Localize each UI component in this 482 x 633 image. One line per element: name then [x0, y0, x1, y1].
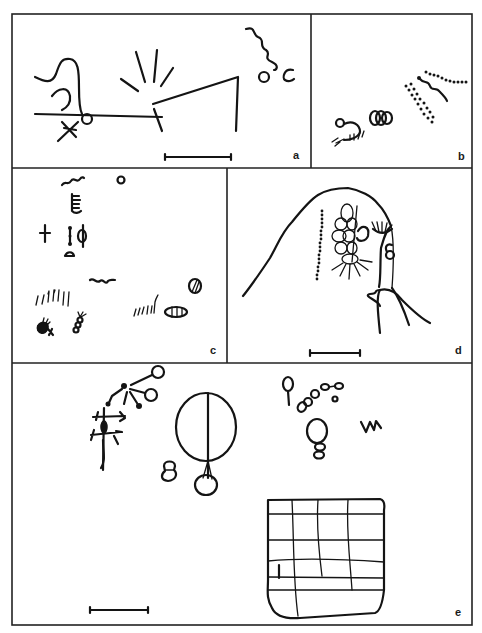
- panel-c-motifs: [36, 177, 201, 336]
- panel-a-motifs: [35, 28, 294, 160]
- panel-d-motifs: [243, 188, 430, 356]
- panel-label-e: e: [455, 607, 461, 618]
- panel-label-c: c: [210, 345, 216, 356]
- panel-label-a: a: [293, 150, 299, 161]
- panel-label-b: b: [458, 151, 465, 162]
- panel-e-motifs: [90, 366, 384, 618]
- panel-label-d: d: [455, 345, 462, 356]
- panel-b-motifs: [332, 71, 468, 147]
- rock-art-figure: a b c d e: [0, 0, 482, 633]
- panel-frames: [12, 14, 472, 625]
- figure-drawing: [0, 0, 482, 633]
